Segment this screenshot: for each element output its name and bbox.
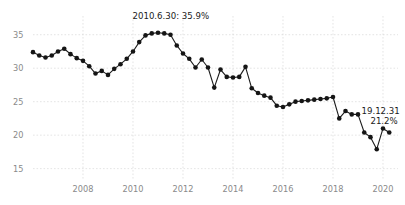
- y-tick-20: 20: [13, 130, 23, 140]
- data-point: [118, 62, 123, 67]
- data-point: [337, 116, 342, 121]
- data-point: [306, 98, 311, 103]
- data-point: [231, 75, 236, 80]
- data-point: [318, 97, 323, 102]
- y-tick-35: 35: [13, 30, 23, 40]
- data-point: [243, 65, 248, 70]
- chart-background: [0, 0, 405, 205]
- peak-annotation-label: 2010.6.30: 35.9%: [133, 11, 210, 21]
- data-point: [356, 112, 361, 117]
- data-point: [106, 73, 111, 78]
- data-point: [37, 53, 42, 58]
- data-point: [81, 59, 86, 64]
- data-point: [224, 75, 229, 80]
- data-point: [349, 112, 354, 117]
- data-point: [112, 67, 117, 72]
- data-point: [181, 51, 186, 56]
- data-point: [68, 52, 73, 57]
- x-tick-2020: 2020: [373, 184, 394, 194]
- data-point: [262, 93, 267, 98]
- data-point: [193, 65, 198, 70]
- data-point: [343, 109, 348, 114]
- data-point: [162, 31, 167, 36]
- data-point: [381, 126, 386, 131]
- data-point: [49, 53, 54, 58]
- data-point: [137, 40, 142, 45]
- x-tick-2008: 2008: [73, 184, 94, 194]
- data-point: [87, 64, 92, 69]
- data-point: [74, 56, 79, 61]
- data-point: [293, 99, 298, 104]
- y-tick-25: 25: [13, 97, 23, 107]
- data-point: [93, 71, 98, 76]
- data-point: [374, 147, 379, 152]
- line-chart: 1520253035 2008201020122014201620182020 …: [0, 0, 405, 205]
- data-point: [43, 55, 48, 60]
- last-annotation-date-label: 19.12.31: [361, 106, 399, 116]
- x-tick-2014: 2014: [223, 184, 244, 194]
- y-tick-30: 30: [13, 63, 23, 73]
- data-point: [187, 57, 192, 62]
- data-point: [324, 96, 329, 101]
- data-point: [206, 65, 211, 70]
- data-point: [249, 86, 254, 91]
- data-point: [149, 31, 154, 36]
- y-tick-15: 15: [13, 164, 23, 174]
- data-point: [124, 57, 129, 62]
- data-point: [287, 102, 292, 107]
- data-point: [362, 130, 367, 135]
- last-annotation-value-label: 21.2%: [370, 116, 397, 126]
- x-tick-2016: 2016: [273, 184, 294, 194]
- data-point: [174, 43, 179, 48]
- x-tick-2012: 2012: [173, 184, 194, 194]
- data-point: [56, 49, 61, 54]
- data-point: [331, 95, 336, 100]
- data-point: [274, 103, 279, 108]
- data-point: [156, 30, 161, 35]
- data-point: [99, 69, 104, 74]
- data-point: [268, 95, 273, 100]
- data-point: [143, 33, 148, 38]
- data-point: [256, 91, 261, 96]
- data-point: [31, 50, 36, 55]
- data-point: [299, 99, 304, 104]
- data-point: [368, 135, 373, 140]
- data-point: [312, 97, 317, 102]
- chart-root: 1520253035 2008201020122014201620182020 …: [0, 0, 405, 205]
- data-point: [212, 85, 217, 90]
- data-point: [62, 46, 67, 51]
- data-point: [387, 130, 392, 135]
- data-point: [281, 105, 286, 110]
- x-tick-2010: 2010: [123, 184, 144, 194]
- x-tick-2018: 2018: [323, 184, 344, 194]
- data-point: [199, 57, 204, 62]
- data-point: [131, 49, 136, 54]
- data-point: [218, 67, 223, 72]
- data-point: [168, 32, 173, 37]
- data-point: [237, 75, 242, 80]
